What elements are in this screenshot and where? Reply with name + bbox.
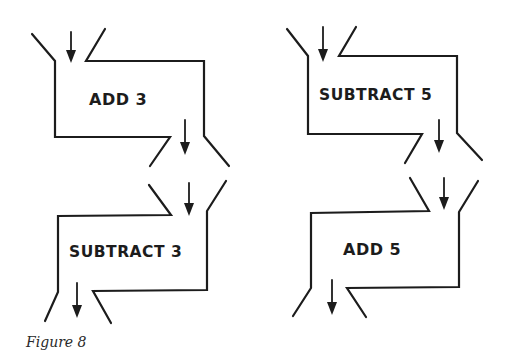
arrow-down-icon bbox=[327, 280, 337, 315]
arrow-down-icon bbox=[184, 183, 194, 216]
arrow-down-icon bbox=[66, 32, 76, 63]
box-label-subtract-3: SUBTRACT 3 bbox=[69, 245, 182, 261]
box-label-add-3: ADD 3 bbox=[89, 92, 147, 108]
arrow-down-icon bbox=[434, 120, 444, 153]
arrow-down-icon bbox=[180, 120, 190, 155]
arrow-down-icon bbox=[439, 178, 449, 210]
arrow-down-icon bbox=[72, 283, 82, 318]
figure-caption: Figure 8 bbox=[26, 334, 87, 350]
arrow-down-icon bbox=[318, 27, 328, 62]
diagram-canvas bbox=[0, 0, 508, 364]
box-label-subtract-5: SUBTRACT 5 bbox=[319, 88, 432, 104]
box-label-add-5: ADD 5 bbox=[343, 242, 401, 258]
